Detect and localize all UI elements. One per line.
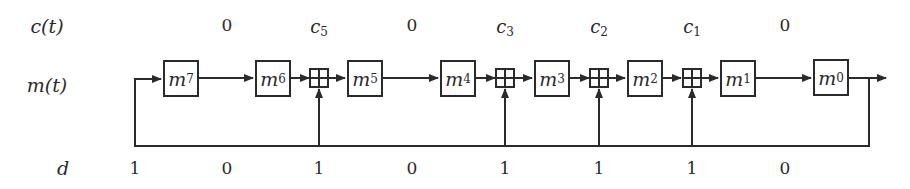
row-label-m: m(t) <box>27 74 67 96</box>
register-m0: m0 <box>813 59 849 96</box>
register-m3: m3 <box>534 60 570 97</box>
row-label-c: c(t) <box>30 15 63 37</box>
d-value: 1 <box>594 158 605 178</box>
d-value: 0 <box>780 158 791 178</box>
c-coefficient: c2 <box>590 16 608 39</box>
d-value: 1 <box>130 158 141 178</box>
d-value: 1 <box>687 158 698 178</box>
register-m7: m7 <box>163 60 199 97</box>
c-value: 0 <box>407 15 418 35</box>
row-label-d: d <box>57 157 69 179</box>
c-coefficient: c5 <box>310 16 328 39</box>
xor-adder-icon <box>683 69 701 87</box>
register-m1: m1 <box>720 60 756 97</box>
xor-adder-icon <box>310 69 328 87</box>
register-m4: m4 <box>440 60 476 97</box>
d-value: 0 <box>407 158 418 178</box>
register-m6: m6 <box>255 60 291 97</box>
d-value: 1 <box>314 158 325 178</box>
c-value: 0 <box>780 15 791 35</box>
d-value: 0 <box>222 158 233 178</box>
c-coefficient: c1 <box>683 16 701 39</box>
d-value: 1 <box>500 158 511 178</box>
xor-adder-icon <box>590 69 608 87</box>
register-m5: m5 <box>347 60 383 97</box>
xor-adder-icon <box>496 69 514 87</box>
c-coefficient: c3 <box>496 16 514 39</box>
c-value: 0 <box>222 15 233 35</box>
register-m2: m2 <box>627 60 663 97</box>
